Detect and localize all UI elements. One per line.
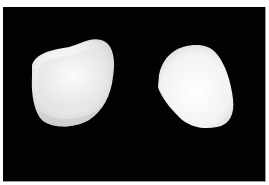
right-crown (158, 45, 233, 128)
crowns-illustration (3, 7, 265, 181)
photo-frame (3, 7, 266, 182)
left-crown (32, 39, 114, 126)
